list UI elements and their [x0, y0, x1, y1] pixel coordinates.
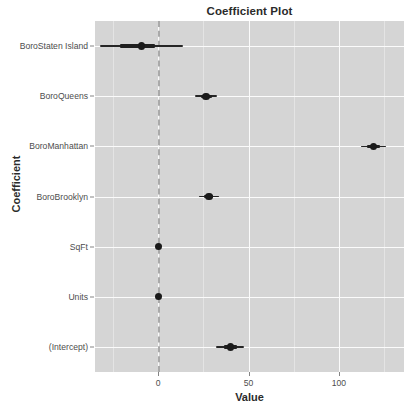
grid-line-major-y: [95, 96, 404, 97]
y-axis-tick-mark: [90, 146, 94, 147]
y-axis-tick-mark: [90, 246, 94, 247]
grid-line-major-y: [95, 247, 404, 248]
y-axis-tick-mark: [90, 46, 94, 47]
y-axis-title: Coefficient: [10, 124, 22, 244]
coefficient-point[interactable]: [227, 343, 234, 350]
grid-line-major-y: [95, 146, 404, 147]
x-axis-tick-mark: [158, 372, 159, 376]
y-axis-tick-label: BoroBrooklyn: [36, 192, 88, 202]
y-axis-tick-label: BoroQueens: [40, 91, 88, 101]
zero-reference-line: [158, 21, 160, 372]
y-axis-tick-mark: [90, 196, 94, 197]
plot-panel: [95, 21, 404, 372]
y-axis-tick-label: (Intercept): [49, 342, 88, 352]
coefficient-point[interactable]: [205, 193, 212, 200]
x-axis-tick-label: 50: [244, 378, 254, 388]
coefficient-point[interactable]: [370, 143, 377, 150]
coefficient-plot: Coefficient Plot BoroStaten IslandBoroQu…: [0, 0, 419, 412]
x-axis-tick-mark: [339, 372, 340, 376]
y-axis-tick-mark: [90, 346, 94, 347]
y-axis-tick-label: SqFt: [70, 242, 88, 252]
grid-line-major-y: [95, 347, 404, 348]
grid-line-major-y: [95, 297, 404, 298]
coefficient-point[interactable]: [155, 243, 162, 250]
page-title: Coefficient Plot: [95, 5, 404, 17]
y-axis-tick-mark: [90, 96, 94, 97]
x-axis-title: Value: [95, 391, 404, 403]
y-axis-tick-label: Units: [68, 292, 88, 302]
y-axis-tick-label: BoroManhattan: [29, 141, 88, 151]
x-axis-tick-mark: [249, 372, 250, 376]
grid-line-major-y: [95, 197, 404, 198]
x-axis-tick-label: 100: [332, 378, 346, 388]
coefficient-point[interactable]: [202, 93, 209, 100]
y-axis-tick-label: BoroStaten Island: [20, 41, 88, 51]
coefficient-point[interactable]: [155, 293, 162, 300]
y-axis-tick-mark: [90, 296, 94, 297]
x-axis-tick-label: 0: [156, 378, 161, 388]
coefficient-point[interactable]: [138, 42, 145, 49]
